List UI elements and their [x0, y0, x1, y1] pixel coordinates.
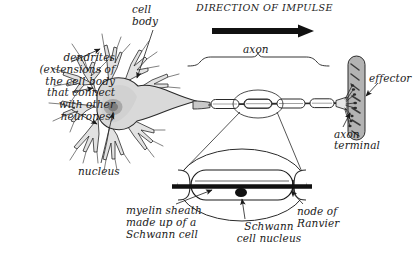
- label-cell-body: cell body: [132, 4, 158, 28]
- direction-of-impulse-arrow: [212, 25, 314, 38]
- inset-schwann-nucleus: [235, 188, 247, 197]
- label-node-of-ranvier: node of Ranvier: [297, 206, 339, 230]
- myelin-segment: [211, 100, 239, 109]
- label-axon-terminal: axon terminal: [334, 129, 380, 152]
- axon-hillock: [193, 101, 210, 109]
- label-effector: effector: [369, 73, 411, 85]
- myelin-segment: [244, 99, 272, 108]
- leader-effector: [366, 83, 378, 96]
- label-axon: axon: [243, 44, 269, 56]
- myelin-segment: [277, 99, 305, 108]
- label-nucleus: nucleus: [78, 166, 120, 178]
- label-dendrites: dendrites (extensions of the cell body t…: [3, 52, 115, 123]
- label-myelin-sheath: myelin sheath made up of a Schwann cell: [126, 205, 202, 241]
- axon-with-myelin: [188, 53, 340, 118]
- label-direction-of-impulse: DIRECTION OF IMPULSE: [196, 3, 333, 14]
- neurone-diagram-figure: cell body dendrites (extensions of the c…: [0, 0, 416, 256]
- myelin-segment: [310, 99, 334, 108]
